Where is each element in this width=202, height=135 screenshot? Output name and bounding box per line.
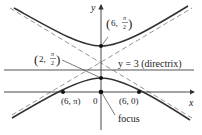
hyperbola-diagram: y x ( 6, π 2 ) ( 2, π 2 ) y = 3 (directr… [0,0,202,135]
svg-text:2,: 2, [39,54,46,64]
svg-text:π: π [51,51,55,57]
point-left-intercept [61,90,65,94]
svg-text:2: 2 [123,24,126,30]
label-origin: 0 [93,96,98,106]
leader-focus [102,93,115,115]
svg-text:): ) [128,16,132,31]
label-right-intercept: (6, 0) [119,96,139,106]
leader-bottom-vertex [62,60,99,77]
label-bottom-vertex: ( 2, π 2 ) [34,51,60,67]
point-right-intercept [137,90,141,94]
svg-text:(: ( [34,52,38,67]
svg-text:6,: 6, [111,18,118,28]
y-axis-label: y [90,2,96,13]
leader-top-vertex [102,37,108,45]
label-left-intercept: (6, π) [61,96,81,106]
label-top-vertex: ( 6, π 2 ) [106,15,132,31]
point-bottom-vertex [99,76,103,80]
svg-text:(: ( [106,16,110,31]
label-focus: focus [118,113,140,124]
svg-text:π: π [123,15,127,21]
svg-text:): ) [56,52,60,67]
svg-text:2: 2 [51,60,54,66]
x-axis-label: x [188,97,194,108]
directrix-label: y = 3 (directrix) [118,58,182,70]
